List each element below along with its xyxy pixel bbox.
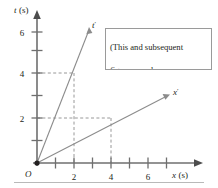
x-prime-arrowhead — [163, 94, 170, 100]
t-tick-label-4: 4 — [20, 69, 25, 79]
t-axis-arrowhead — [33, 10, 41, 19]
origin-dot — [34, 160, 39, 165]
x-prime-label-prime: ′ — [177, 87, 179, 95]
x-axis-label-unit: (s) — [179, 170, 189, 180]
note-line-1: (This and subsequent — [110, 42, 208, 53]
dashed-guides — [37, 73, 111, 163]
x-prime-label: x′ — [172, 87, 179, 97]
t-axis-label: t(s) — [14, 5, 29, 15]
spacetime-figure: t(s) x(s) O 2 4 6 2 4 6 t′ x′ (This and … — [0, 0, 218, 188]
x-tick-label-2: 2 — [72, 172, 77, 182]
t-tick-label-6: 6 — [20, 28, 25, 38]
t-axis-label-symbol: t — [14, 5, 17, 15]
t-axis — [32, 10, 43, 166]
t-prime-label: t′ — [92, 20, 97, 30]
x-tick-label-6: 6 — [146, 172, 151, 182]
x-tick-label-4: 4 — [109, 172, 114, 182]
x-axis-arrowhead — [194, 159, 203, 167]
x-prime-line — [37, 94, 170, 163]
note-line-2: figures are drawn — [110, 65, 208, 70]
note-box: (This and subsequent figures are drawn a… — [105, 28, 212, 70]
t-prime-label-prime: ′ — [95, 20, 97, 28]
x-axis-label: x(s) — [171, 170, 188, 180]
t-axis-label-unit: (s) — [19, 5, 29, 15]
x-axis — [33, 158, 203, 169]
origin-label: O — [25, 169, 32, 179]
t-tick-label-2: 2 — [20, 114, 25, 124]
x-axis-label-symbol: x — [171, 170, 176, 180]
t-prime-line — [37, 27, 92, 163]
bottom-rule — [14, 182, 204, 183]
